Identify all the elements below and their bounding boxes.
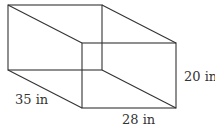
edge-bottom-right [102,70,176,108]
back-face [8,5,102,70]
height-label: 20 in [184,69,215,84]
edge-top-right [102,5,176,43]
depth-label: 35 in [15,92,49,107]
front-face [82,43,176,108]
edge-top-left [8,5,82,43]
prism-diagram: 35 in 28 in 20 in [0,0,215,129]
width-label: 28 in [122,112,156,127]
